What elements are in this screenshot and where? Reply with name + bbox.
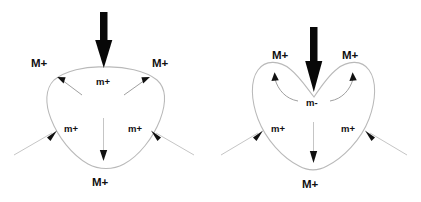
internal-arrow-downward bbox=[310, 122, 317, 163]
label-inner-lower-left: m+ bbox=[64, 123, 78, 134]
label-center: m- bbox=[306, 97, 318, 108]
external-arrow-lower-right bbox=[151, 131, 194, 155]
label-outer-bottom: M+ bbox=[92, 176, 109, 188]
external-arrow-lower-right bbox=[365, 131, 407, 155]
external-arrow-lower-left bbox=[221, 131, 263, 155]
load-arrow-icon bbox=[95, 12, 112, 68]
label-inner-lower-right: m+ bbox=[128, 123, 142, 134]
label-center: m+ bbox=[96, 76, 110, 87]
figure-canvas: M+ M+ M+ m+ m+ m+ bbox=[0, 0, 421, 202]
internal-arrow-right-lobe bbox=[330, 72, 357, 101]
internal-arrow-left-lobe bbox=[271, 72, 298, 101]
label-outer-top-left: M+ bbox=[31, 57, 48, 69]
label-inner-lower-right: m+ bbox=[341, 123, 355, 134]
label-outer-bottom: M+ bbox=[302, 178, 319, 190]
label-outer-top-right: M+ bbox=[152, 57, 169, 69]
label-outer-top-right: M+ bbox=[342, 49, 359, 61]
internal-arrow-downward bbox=[100, 118, 107, 161]
diagram-panel-right: M+ M+ M+ m- m+ m+ bbox=[210, 0, 421, 202]
external-arrow-lower-left bbox=[14, 131, 57, 155]
diagram-panel-left: M+ M+ M+ m+ m+ m+ bbox=[0, 0, 210, 202]
internal-arrow-upper-right bbox=[124, 77, 150, 95]
label-inner-lower-left: m+ bbox=[271, 123, 285, 134]
label-outer-top-left: M+ bbox=[272, 49, 289, 61]
load-arrow-icon bbox=[305, 27, 322, 92]
internal-arrow-upper-left bbox=[57, 77, 82, 95]
